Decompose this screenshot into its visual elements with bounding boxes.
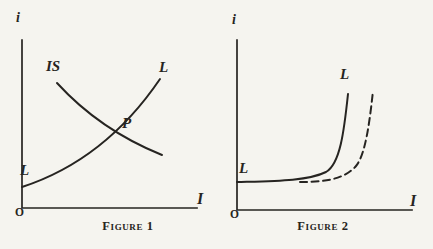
figure2-l-curve-label: L — [340, 67, 349, 82]
figure2-x-axis-label: I — [410, 193, 416, 209]
figure1-is-curve-label: IS — [46, 59, 60, 74]
figure2-l-intercept-label: L — [239, 161, 248, 176]
figure2-origin-label: O — [230, 209, 239, 221]
figure1-caption: Figure 1 — [83, 220, 173, 233]
figure1-l-intercept-label: L — [20, 163, 29, 178]
figure2-plot — [216, 0, 433, 249]
figure1-is-curve — [57, 83, 162, 155]
figure1-l-curve-label: L — [159, 60, 168, 75]
figure2-l-solid-curve — [237, 94, 348, 182]
figure1-plot — [0, 0, 216, 249]
figure1-l-curve — [22, 79, 160, 187]
figure2-axes — [237, 40, 412, 210]
figure1-intersection-label: P — [122, 116, 131, 131]
figure1-y-axis-label: i — [16, 11, 20, 25]
figure2-y-axis-label: i — [232, 13, 236, 27]
figure1-origin-label: O — [15, 207, 24, 219]
scanned-book-figure: i IS L P L O I Figure 1 i L L O I Figure… — [0, 0, 433, 249]
figure1-x-axis-label: I — [197, 191, 203, 207]
figure2-caption: Figure 2 — [278, 220, 368, 233]
figure2-l-dashed-curve — [300, 91, 373, 182]
